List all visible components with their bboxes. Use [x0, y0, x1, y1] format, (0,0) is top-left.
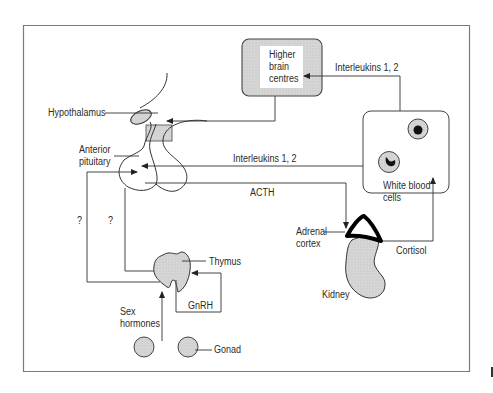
- il-to-brain-label: Interleukins 1, 2: [335, 62, 399, 74]
- gonad-left-shape: [134, 337, 154, 357]
- gnrh-label: GnRH: [188, 300, 213, 312]
- thymus-shape: [154, 252, 191, 292]
- higher-brain-line1: Higher: [269, 49, 300, 61]
- adrenal-cortex-line1: Adrenal: [296, 226, 327, 238]
- hypothalamus-shape: [128, 107, 153, 127]
- adrenal-cortex-shape: [347, 216, 381, 241]
- white-blood-cells-line1: White blood: [383, 180, 431, 192]
- question-feedback-arrow-1: [87, 172, 137, 282]
- pituitary-structure: [119, 73, 207, 191]
- sex-hormones-line1: Sex: [120, 306, 160, 318]
- il-to-pituitary-label: Interleukins 1, 2: [233, 153, 297, 165]
- white-blood-cells-line2: cells: [383, 192, 431, 204]
- anterior-pituitary-label: Anterior pituitary: [79, 144, 111, 168]
- brain-to-hypothalamus-arrow: [167, 96, 275, 121]
- kidney-label: Kidney: [322, 289, 350, 301]
- hypothalamus-label: Hypothalamus: [48, 107, 106, 119]
- anterior-pituitary-line1: Anterior: [79, 144, 111, 156]
- white-blood-cells-label: White blood cells: [383, 180, 431, 204]
- thymus-label: Thymus: [209, 256, 241, 268]
- adrenal-cortex-label: Adrenal cortex: [296, 226, 327, 250]
- cortisol-label: Cortisol: [396, 245, 427, 257]
- question-mark-2: ?: [108, 215, 113, 227]
- higher-brain-line3: centres: [269, 73, 300, 85]
- acth-arrow: [145, 183, 346, 228]
- acth-label: ACTH: [250, 187, 275, 199]
- pituitary-to-thymus-arrow: [125, 188, 161, 271]
- gonad-label: Gonad: [214, 344, 241, 356]
- higher-brain-label: Higher brain centres: [269, 49, 300, 85]
- sex-hormones-line2: hormones: [120, 318, 160, 330]
- sex-hormones-label: Sex hormones: [120, 306, 160, 330]
- kidney-shape: [346, 237, 385, 298]
- anterior-pituitary-line2: pituitary: [79, 156, 111, 168]
- gonad-right-shape: [178, 337, 198, 357]
- median-eminence-shape: [146, 125, 172, 141]
- higher-brain-line2: brain: [269, 61, 300, 73]
- adrenal-cortex-line2: cortex: [296, 238, 327, 250]
- question-mark-1: ?: [77, 215, 82, 227]
